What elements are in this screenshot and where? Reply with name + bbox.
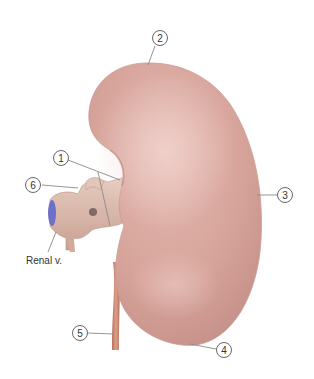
- callout-2: 2: [153, 31, 168, 46]
- callout-4: 4: [217, 343, 232, 358]
- kidney-anatomy-figure: 1 2 3 4 5 6 Renal v.: [0, 0, 314, 379]
- callout-1: 1: [54, 151, 69, 166]
- callout-number: 1: [58, 153, 64, 164]
- renal-vein-cut-end: [48, 200, 56, 226]
- callout-6: 6: [26, 178, 41, 193]
- renal-vein-label: Renal v.: [26, 255, 62, 266]
- callout-number: 5: [77, 328, 83, 339]
- callout-number: 4: [221, 345, 227, 356]
- callout-number: 6: [30, 180, 36, 191]
- callout-3: 3: [278, 188, 293, 203]
- callout-number: 3: [282, 190, 288, 201]
- callout-5: 5: [73, 326, 88, 341]
- callout-number: 2: [157, 33, 163, 44]
